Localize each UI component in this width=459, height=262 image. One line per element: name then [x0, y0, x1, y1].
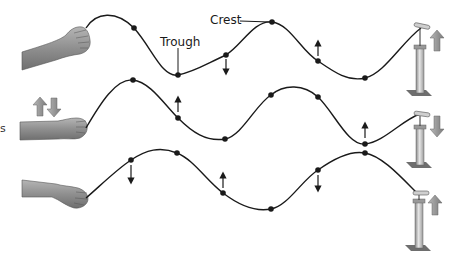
- clipped-edge-text: s: [0, 122, 6, 135]
- pump-down-arrow-icon: [430, 116, 444, 137]
- pump-icon: [405, 191, 431, 251]
- crest-label: Crest: [210, 14, 241, 26]
- row-2: [20, 77, 444, 168]
- particle-dot: [315, 94, 321, 100]
- hand-down-arrow-icon: [47, 98, 61, 117]
- pump-up-arrow-icon: [430, 30, 444, 51]
- particle-dot: [268, 206, 274, 212]
- particle-dot: [128, 157, 134, 163]
- particle-dot: [315, 167, 321, 173]
- particle-dot: [130, 77, 136, 83]
- hand-icon: [22, 27, 90, 70]
- particle-dot: [175, 115, 181, 121]
- particle-dot: [315, 58, 321, 64]
- particle-dot: [362, 150, 368, 156]
- wave-rope: [86, 15, 421, 79]
- particle-dot: [174, 150, 180, 156]
- hand-icon: [20, 118, 87, 140]
- wave-rope: [86, 149, 418, 209]
- wave-diagram-canvas: [0, 0, 459, 262]
- particle-dot: [175, 72, 181, 78]
- particle-dot: [268, 92, 274, 98]
- wave-diagram: Crest Trough s: [0, 0, 459, 262]
- row-3: [22, 149, 442, 251]
- particle-dot: [362, 141, 368, 147]
- pump-up-arrow-icon: [428, 195, 442, 215]
- pump-icon: [406, 22, 432, 96]
- hand-icon: [22, 180, 88, 208]
- particle-dot: [131, 25, 137, 31]
- particle-dot: [223, 52, 229, 58]
- trough-label: Trough: [160, 36, 200, 48]
- wave-rope: [86, 80, 420, 144]
- particle-dot: [222, 136, 228, 142]
- particle-dot: [269, 19, 275, 25]
- row-1: [22, 15, 444, 96]
- crest-leader-line: [240, 21, 270, 22]
- particle-dot: [220, 190, 226, 196]
- particle-dot: [362, 75, 368, 81]
- hand-up-arrow-icon: [33, 97, 47, 116]
